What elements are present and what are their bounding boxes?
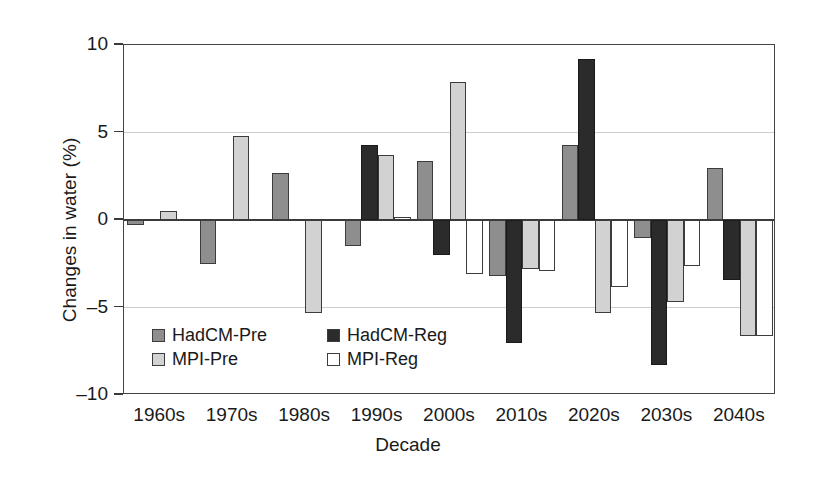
y-axis-title: Changes in water (%) bbox=[59, 50, 81, 410]
bar bbox=[450, 82, 467, 220]
bar bbox=[562, 145, 579, 220]
x-tick-label: 2030s bbox=[630, 404, 702, 426]
bar bbox=[272, 173, 289, 220]
y-tick-label: –5 bbox=[40, 297, 108, 316]
bar bbox=[305, 220, 322, 313]
bar bbox=[595, 220, 612, 313]
bar bbox=[707, 168, 724, 221]
bar bbox=[684, 220, 701, 266]
x-tick-label: 2040s bbox=[703, 404, 775, 426]
bar bbox=[611, 220, 628, 287]
legend-item-mpi-pre: MPI-Pre bbox=[152, 347, 327, 371]
bar bbox=[417, 161, 434, 221]
bar bbox=[667, 220, 684, 302]
x-tick-label: 2010s bbox=[485, 404, 557, 426]
legend-row: HadCM-Pre HadCM-Reg bbox=[152, 323, 447, 347]
bar-group bbox=[631, 45, 703, 395]
y-tick-label: –10 bbox=[40, 384, 108, 403]
y-tick-label: 5 bbox=[40, 122, 108, 141]
bar bbox=[378, 155, 395, 220]
x-tick-label: 2000s bbox=[413, 404, 485, 426]
bar bbox=[756, 220, 773, 336]
legend-swatch-icon bbox=[327, 329, 340, 342]
bar bbox=[506, 220, 523, 343]
bar bbox=[233, 136, 250, 220]
legend-swatch-icon bbox=[327, 353, 340, 366]
bar bbox=[539, 220, 556, 271]
bar bbox=[651, 220, 668, 365]
x-axis-title: Decade bbox=[0, 434, 816, 456]
x-tick-label: 2020s bbox=[558, 404, 630, 426]
bar bbox=[127, 220, 144, 225]
legend-item-hadcm-reg: HadCM-Reg bbox=[327, 323, 447, 347]
y-tick-label: 0 bbox=[40, 209, 108, 228]
legend-label: HadCM-Pre bbox=[172, 323, 267, 347]
bar bbox=[634, 220, 651, 238]
legend-label: HadCM-Reg bbox=[347, 323, 447, 347]
chart-legend: HadCM-Pre HadCM-Reg MPI-Pre MPI-Reg bbox=[152, 323, 447, 371]
bar bbox=[740, 220, 757, 336]
y-tick-mark bbox=[114, 43, 123, 45]
bar bbox=[578, 59, 595, 220]
bar bbox=[160, 211, 177, 220]
legend-row: MPI-Pre MPI-Reg bbox=[152, 347, 447, 371]
bar bbox=[489, 220, 506, 276]
legend-item-mpi-reg: MPI-Reg bbox=[327, 347, 418, 371]
y-tick-mark bbox=[114, 131, 123, 133]
legend-label: MPI-Reg bbox=[347, 347, 418, 371]
x-tick-label: 1960s bbox=[123, 404, 195, 426]
bar bbox=[522, 220, 539, 269]
chart-figure: Changes in water (%) 1050–5–10 HadCM-Pre… bbox=[0, 0, 816, 480]
bar-group bbox=[559, 45, 631, 395]
bar bbox=[345, 220, 362, 246]
bar bbox=[433, 220, 450, 255]
y-tick-mark bbox=[114, 306, 123, 308]
y-tick-mark bbox=[114, 218, 123, 220]
bar bbox=[723, 220, 740, 280]
y-tick-mark bbox=[114, 393, 123, 395]
bar bbox=[466, 220, 483, 274]
bar bbox=[394, 217, 411, 221]
bar-group bbox=[704, 45, 776, 395]
legend-item-hadcm-pre: HadCM-Pre bbox=[152, 323, 327, 347]
bar-group bbox=[486, 45, 558, 395]
x-tick-label: 1990s bbox=[340, 404, 412, 426]
legend-swatch-icon bbox=[152, 329, 165, 342]
legend-swatch-icon bbox=[152, 353, 165, 366]
bar bbox=[361, 145, 378, 220]
x-tick-label: 1970s bbox=[195, 404, 267, 426]
legend-label: MPI-Pre bbox=[172, 347, 238, 371]
x-tick-label: 1980s bbox=[268, 404, 340, 426]
y-tick-label: 10 bbox=[40, 34, 108, 53]
bar bbox=[200, 220, 217, 264]
